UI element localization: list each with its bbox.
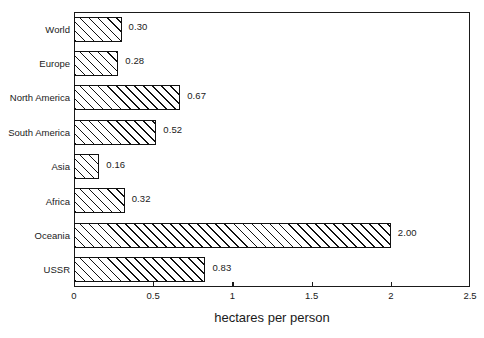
bar [74, 120, 156, 145]
bar-row: 0.83 [74, 253, 470, 287]
category-label: Oceania [0, 230, 70, 241]
bar-value-label: 0.32 [132, 193, 151, 204]
bar [74, 188, 125, 213]
x-axis-tick-mark [312, 282, 313, 287]
bar-value-label: 0.83 [212, 262, 231, 273]
bar-value-label: 2.00 [398, 227, 417, 238]
category-label: Africa [0, 196, 70, 207]
bar [74, 17, 122, 42]
category-label: USSR [0, 264, 70, 275]
bar-row: 0.28 [74, 46, 470, 80]
bar-chart: WorldEuropeNorth AmericaSouth AmericaAsi… [0, 0, 484, 338]
x-axis-tick-mark [391, 282, 392, 287]
x-axis-tick-label: 0 [71, 290, 76, 301]
bar [74, 223, 391, 248]
bar-row: 0.67 [74, 81, 470, 115]
bar-row: 0.16 [74, 150, 470, 184]
bar [74, 257, 205, 282]
bar [74, 154, 99, 179]
category-label: South America [0, 127, 70, 138]
x-axis-tick-label: 2 [388, 290, 393, 301]
bar-row: 2.00 [74, 218, 470, 252]
x-axis-title: hectares per person [74, 310, 470, 326]
category-label: Asia [0, 161, 70, 172]
x-axis-tick-label: 2.5 [463, 290, 476, 301]
x-axis-tick-label: 0.5 [147, 290, 160, 301]
x-axis-tick-mark [232, 282, 233, 287]
x-axis-tick-mark [153, 282, 154, 287]
category-label: World [0, 24, 70, 35]
bar-row: 0.30 [74, 12, 470, 46]
bar-row: 0.52 [74, 115, 470, 149]
x-axis-tick-label: 1.5 [305, 290, 318, 301]
bar-value-label: 0.52 [163, 124, 182, 135]
bar-row: 0.32 [74, 184, 470, 218]
bars-container: 0.300.280.670.520.160.322.000.83 [74, 12, 470, 287]
category-label: Europe [0, 58, 70, 69]
bar-value-label: 0.28 [125, 55, 144, 66]
category-label: North America [0, 92, 70, 103]
bar [74, 85, 180, 110]
value-axis: 00.511.522.5 [74, 287, 470, 311]
bar-value-label: 0.16 [106, 159, 125, 170]
category-axis-labels: WorldEuropeNorth AmericaSouth AmericaAsi… [0, 12, 70, 287]
bar [74, 51, 118, 76]
x-axis-tick-label: 1 [230, 290, 235, 301]
bar-value-label: 0.67 [187, 90, 206, 101]
bar-value-label: 0.30 [129, 21, 148, 32]
